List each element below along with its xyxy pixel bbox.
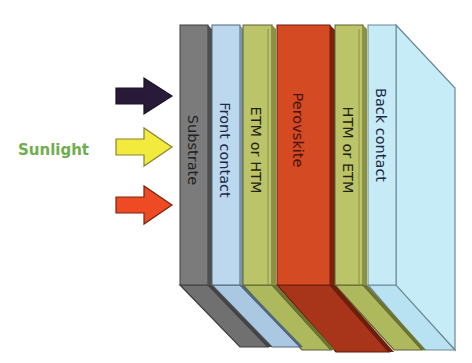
layer-etm-or-htm: ETM or HTM (243, 25, 276, 285)
layer-front-contact: Front contact (212, 25, 243, 285)
solar-cell-diagram: Substrate Front contact ETM or HTM Perov… (0, 0, 472, 363)
layer-back-contact: Back contact (368, 25, 396, 285)
sunlight-label: Sunlight (18, 141, 89, 159)
arrow-yellow-icon (116, 128, 172, 166)
layer-htm-or-etm: HTM or ETM (335, 25, 367, 285)
sunlight-arrows (116, 78, 172, 224)
layer-label-htm-or-etm: HTM or ETM (340, 107, 356, 194)
arrow-dark-icon (116, 78, 172, 114)
layer-stack-figure: Substrate Front contact ETM or HTM Perov… (0, 0, 472, 363)
layer-label-substrate: Substrate (185, 115, 201, 185)
layer-label-back-contact: Back contact (373, 88, 389, 182)
layer-perovskite: Perovskite (277, 25, 335, 285)
layer-label-etm-or-htm: ETM or HTM (248, 107, 264, 194)
arrow-red-icon (116, 186, 172, 224)
layer-label-front-contact: Front contact (217, 102, 233, 198)
layer-label-perovskite: Perovskite (290, 93, 306, 168)
layer-substrate: Substrate (180, 25, 212, 285)
